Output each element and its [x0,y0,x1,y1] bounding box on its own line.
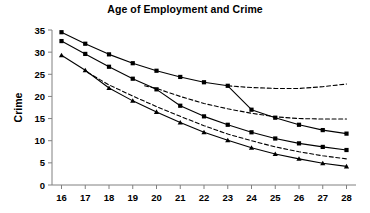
y-tick-label: 0 [40,180,45,191]
x-tick-label: 24 [246,192,257,203]
data-point-marker-square [202,80,206,84]
data-point-marker-square [249,108,253,112]
data-point-marker-square [273,136,277,140]
y-tick-label: 5 [40,157,46,168]
y-tick-label: 35 [34,25,45,36]
data-point-marker-square [344,132,348,136]
data-point-marker-square [154,69,158,73]
y-tick-label: 20 [34,91,45,102]
data-point-marker-square [59,30,63,34]
x-tick-label: 25 [270,192,281,203]
y-tick-label: 15 [34,113,45,124]
chart-plot-area: 05101520253035 1617181920212223242526272… [0,0,370,213]
data-point-marker-triangle [130,98,135,103]
data-point-marker-square [83,52,87,56]
series-line-upper-dashed-projection [228,84,347,88]
x-tick-label: 26 [294,192,305,203]
y-tick-label: 30 [34,47,45,58]
y-axis: 05101520253035 [34,25,52,191]
x-tick-label: 27 [317,192,328,203]
x-tick-label: 28 [341,192,352,203]
data-point-marker-square [344,148,348,152]
series-line-lower-dashed-projection [88,73,347,159]
series-line-bottom-solid-triangle [62,55,347,166]
data-point-marker-square [226,123,230,127]
data-point-marker-square [178,104,182,108]
y-tick-label: 10 [34,135,45,146]
data-point-marker-square [178,75,182,79]
data-point-marker-triangle [83,68,88,73]
x-tick-label: 20 [151,192,162,203]
x-tick-label: 19 [127,192,138,203]
x-tick-label: 21 [175,192,186,203]
x-tick-label: 23 [222,192,233,203]
data-point-marker-square [131,77,135,81]
data-series-group [59,30,349,168]
x-tick-label: 17 [80,192,91,203]
y-tick-label: 25 [34,69,45,80]
y-axis-title: Crime [12,92,24,122]
data-point-marker-square [107,65,111,69]
data-point-marker-square [107,52,111,56]
data-point-marker-square [321,145,325,149]
x-axis: 16171819202122232425262728 [52,185,356,203]
data-point-marker-triangle [59,53,64,58]
chart-container: Age of Employment and Crime 051015202530… [0,0,370,213]
x-tick-label: 18 [104,192,115,203]
data-point-marker-square [297,141,301,145]
data-point-marker-square [249,130,253,134]
x-tick-label: 16 [56,192,67,203]
x-tick-label: 22 [199,192,210,203]
data-point-marker-square [131,61,135,65]
data-point-marker-square [83,42,87,46]
data-point-marker-square [59,39,63,43]
data-point-marker-square [321,128,325,132]
data-point-marker-square [297,123,301,127]
data-point-marker-square [202,114,206,118]
